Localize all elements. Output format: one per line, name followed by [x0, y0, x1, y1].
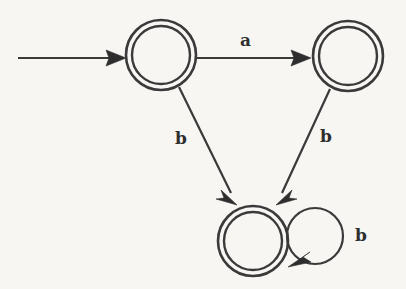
state-top-right-outer-ring [313, 21, 383, 91]
self-loop-circle [287, 208, 343, 264]
automaton-canvas [0, 0, 406, 289]
start-arrow-head-icon [106, 50, 126, 66]
transition-label-b-right: b [320, 128, 332, 145]
state-bottom[interactable] [218, 206, 288, 276]
transition-label-b-left: b [175, 130, 187, 147]
state-top-left-inner-ring [132, 26, 190, 84]
state-top-right-inner-ring [319, 27, 377, 85]
transition-q1-q2-arrow-head-icon [276, 190, 297, 205]
transition-label-b-self-loop: b [355, 227, 367, 244]
transition-q0-q1-arrow-head-icon [291, 50, 311, 66]
state-bottom-inner-ring [224, 212, 282, 270]
state-top-right[interactable] [313, 21, 383, 91]
state-bottom-outer-ring [218, 206, 288, 276]
automaton-diagram: a b b b [0, 0, 406, 289]
transition-q1-q2 [276, 89, 330, 205]
transition-label-a: a [240, 32, 251, 49]
transition-q0-q1 [197, 50, 311, 66]
state-top-left[interactable] [126, 20, 196, 90]
transition-q0-q2-arrow-head-icon [216, 190, 237, 205]
self-loop-arrow-head-icon [288, 252, 311, 267]
transition-q0-q2 [179, 87, 237, 205]
start-arrow [18, 50, 126, 66]
transition-q2-q2-self-loop [287, 208, 343, 267]
state-top-left-outer-ring [126, 20, 196, 90]
